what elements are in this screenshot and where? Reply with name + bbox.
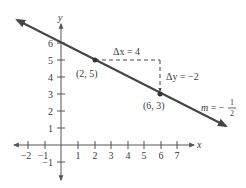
point-2-5	[93, 58, 98, 63]
point-label-6-3: (6, 3)	[143, 100, 165, 112]
x-axis-label: x	[196, 139, 202, 150]
svg-text:4: 4	[48, 72, 53, 83]
svg-text:−2: −2	[21, 150, 32, 161]
svg-text:2: 2	[93, 150, 98, 161]
svg-text:5: 5	[142, 150, 147, 161]
svg-text:3: 3	[109, 150, 114, 161]
svg-text:1: 1	[230, 98, 234, 107]
svg-text:7: 7	[175, 150, 180, 161]
point-label-2-5: (2, 5)	[76, 68, 98, 80]
svg-text:3: 3	[48, 89, 53, 100]
point-6-3	[158, 92, 163, 97]
svg-text:6: 6	[159, 150, 164, 161]
svg-text:1: 1	[48, 123, 53, 134]
svg-text:m = −: m = −	[201, 102, 225, 113]
svg-text:4: 4	[126, 150, 131, 161]
svg-text:−1: −1	[42, 157, 53, 168]
svg-text:5: 5	[48, 55, 53, 66]
svg-text:6: 6	[48, 38, 53, 49]
svg-text:1: 1	[76, 150, 81, 161]
svg-text:2: 2	[48, 106, 53, 117]
delta-y-label: Δy = −2	[166, 71, 199, 82]
y-axis-label: y	[57, 12, 63, 23]
y-tick-labels: 6 5 4 3 2 1 −1	[42, 38, 53, 168]
svg-text:2: 2	[230, 109, 234, 118]
delta-x-label: Δx = 4	[113, 46, 140, 57]
slope-diagram: x y −2 −1 1 2 3 4 5 6 7 6 5 4	[0, 0, 246, 188]
